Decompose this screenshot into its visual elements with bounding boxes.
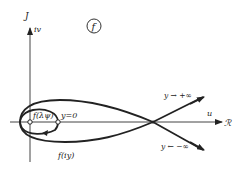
label-f-iy: f(iy) [57, 151, 74, 160]
crossing-point [151, 120, 154, 123]
lower-branch-arrow [190, 142, 204, 150]
label-y-zero: y=0 [60, 111, 77, 120]
upper-branch-arrow [190, 97, 204, 104]
nyquist-diagram: f J iv u ℛ f(λψ) y=0 f(iy) y → +∞ y ← −∞ [0, 0, 239, 169]
panel-label: f [91, 21, 98, 32]
vertical-axis-label: J [23, 11, 30, 21]
diagram-canvas: f J iv u ℛ f(λψ) y=0 f(iy) y → +∞ y ← −∞ [0, 0, 239, 169]
vertical-axis-sublabel: iv [34, 25, 42, 34]
point-y-zero [56, 120, 60, 124]
inner-loop-arrow-icon [42, 130, 48, 136]
label-f-lambda: f(λψ) [32, 111, 54, 120]
point-f-lambda [28, 120, 32, 124]
horizontal-domain-label: ℛ [224, 118, 232, 128]
label-lower-branch: y ← −∞ [160, 142, 189, 151]
label-upper-branch: y → +∞ [163, 91, 192, 100]
horizontal-axis-label: u [207, 109, 212, 118]
